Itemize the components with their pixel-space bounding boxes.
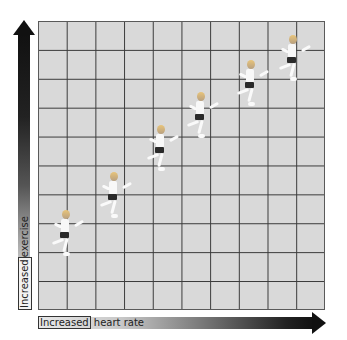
y-axis-label-part2: exercise bbox=[19, 216, 31, 257]
x-axis-label-part1: Increased bbox=[38, 316, 91, 329]
x-axis-arrow-head-icon bbox=[312, 312, 326, 334]
y-axis-label-part1: Increased bbox=[18, 257, 32, 310]
y-axis-label: Increased exercise bbox=[18, 214, 30, 310]
x-axis-label: Increased heart rate bbox=[38, 317, 144, 329]
chart-grid bbox=[38, 21, 325, 310]
y-axis-arrow-head-icon bbox=[13, 20, 35, 35]
x-axis-label-part2: heart rate bbox=[91, 317, 144, 328]
